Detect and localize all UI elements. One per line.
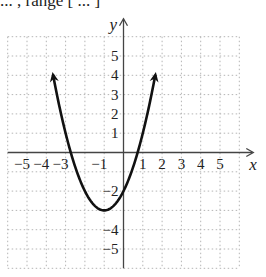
y-tick-label: 5 — [111, 48, 119, 64]
y-tick-label: 2 — [111, 106, 119, 122]
x-tick-label: −3 — [53, 156, 69, 172]
x-tick-label: 1 — [139, 156, 147, 172]
y-tick-label: 3 — [111, 87, 119, 103]
y-axis-label: y — [108, 15, 118, 34]
y-tick-label: −4 — [103, 222, 119, 238]
x-tick-label: 4 — [197, 156, 205, 172]
x-tick-label: −4 — [33, 156, 49, 172]
y-tick-label: 1 — [111, 125, 119, 141]
x-tick-label: −1 — [91, 156, 107, 172]
parabola-graph: xy −5−4−3−11234554321−2−4−5 — [0, 0, 266, 277]
x-axis-label: x — [248, 155, 257, 174]
x-tick-label: 3 — [178, 156, 186, 172]
y-tick-label: −2 — [103, 183, 119, 199]
y-tick-label: −5 — [103, 241, 119, 257]
x-tick-label: −5 — [14, 156, 30, 172]
y-tick-label: 4 — [111, 67, 119, 83]
x-tick-label: 5 — [216, 156, 224, 172]
x-tick-label: 2 — [158, 156, 166, 172]
